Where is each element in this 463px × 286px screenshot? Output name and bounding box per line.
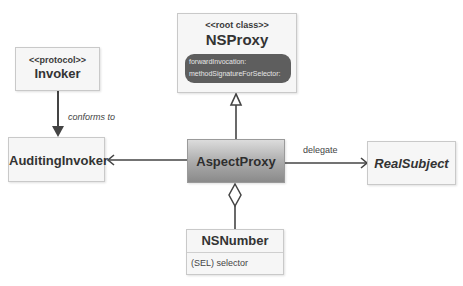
nsnumber-class-box: NSNumber (SEL) selector	[186, 229, 284, 275]
stereotype-label: <<root class>>	[178, 20, 296, 30]
inheritance-arrowhead-icon	[231, 94, 241, 105]
attribute-item: (SEL) selector	[187, 253, 283, 268]
class-name: AspectProxy	[196, 154, 275, 169]
class-name: NSNumber	[187, 230, 283, 253]
aggregation-diamond-icon	[229, 184, 241, 206]
method-item: forwardInvocation:	[189, 56, 291, 68]
real-subject-class-box: RealSubject	[367, 141, 456, 185]
method-item: methodSignatureForSelector:	[189, 68, 291, 80]
class-name: Invoker	[16, 66, 99, 81]
methods-pill: forwardInvocation: methodSignatureForSel…	[185, 54, 291, 83]
invoker-protocol-box: <<protocol>> Invoker	[15, 47, 100, 91]
delegate-label: delegate	[303, 145, 338, 155]
conforms-to-label: conforms to	[68, 112, 115, 122]
stereotype-label: <<protocol>>	[16, 55, 99, 65]
class-name: AuditingInvoker	[9, 153, 108, 168]
nsproxy-class-box: <<root class>> NSProxy forwardInvocation…	[177, 13, 297, 93]
class-name: RealSubject	[374, 156, 448, 171]
auditing-invoker-class-box: AuditingInvoker	[8, 137, 105, 182]
class-name: NSProxy	[178, 31, 296, 48]
aspect-proxy-class-box: AspectProxy	[187, 139, 285, 183]
filled-arrowhead-icon	[52, 126, 64, 137]
